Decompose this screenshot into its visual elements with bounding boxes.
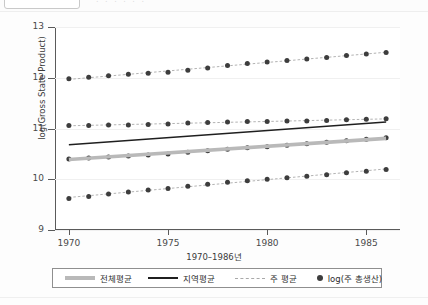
legend-item-region-mean[interactable]: 지역평균 <box>148 272 215 284</box>
cropped-toolbar-strip: . . . . . . <box>0 0 428 11</box>
x-tick <box>168 230 169 235</box>
state-mean-line-icon <box>235 278 265 279</box>
bottom-divider <box>0 297 428 298</box>
legend-label-gsp-points: log(주 총생산) <box>328 272 382 284</box>
legend-item-state-mean[interactable]: 주 평균 <box>235 272 297 284</box>
gridline-y <box>55 129 400 130</box>
y-tick <box>48 78 55 79</box>
y-tick <box>48 27 55 28</box>
gridline-y <box>55 179 400 180</box>
x-tick-label: 1975 <box>148 238 188 248</box>
legend-label-state-mean: 주 평균 <box>270 272 297 284</box>
chart-page: . . . . . . 910111213 log(Gross State Pr… <box>0 0 428 305</box>
top-divider <box>0 11 428 12</box>
x-tick-label: 1980 <box>247 238 287 248</box>
y-tick <box>48 230 55 231</box>
chart-legend: 전체평균 지역평균 주 평균 log(주 총생산) <box>52 268 382 288</box>
gridline-y <box>55 78 400 79</box>
legend-item-overall-mean[interactable]: 전체평균 <box>65 272 132 284</box>
x-tick <box>69 230 70 235</box>
overall-mean-line-icon <box>65 276 95 279</box>
x-tick <box>366 230 367 235</box>
legend-label-overall-mean: 전체평균 <box>100 272 132 284</box>
gridline-y <box>55 230 400 231</box>
y-tick-label: 9 <box>28 224 44 234</box>
data-point-marker-icon <box>317 275 323 281</box>
legend-label-region-mean: 지역평균 <box>183 272 215 284</box>
legend-item-gsp-points[interactable]: log(주 총생산) <box>311 272 382 284</box>
toolbar-ghost-text: . . . . . . <box>96 0 146 4</box>
x-tick-label: 1970 <box>49 238 89 248</box>
x-axis-title: 1970–1986년 <box>0 250 428 262</box>
y-axis-title: log(Gross State Product) <box>37 0 47 188</box>
x-tick <box>267 230 268 235</box>
gridline-y <box>55 27 400 28</box>
region-mean-line-icon <box>148 277 178 279</box>
x-tick-label: 1985 <box>346 238 386 248</box>
y-tick <box>48 129 55 130</box>
y-tick <box>48 179 55 180</box>
